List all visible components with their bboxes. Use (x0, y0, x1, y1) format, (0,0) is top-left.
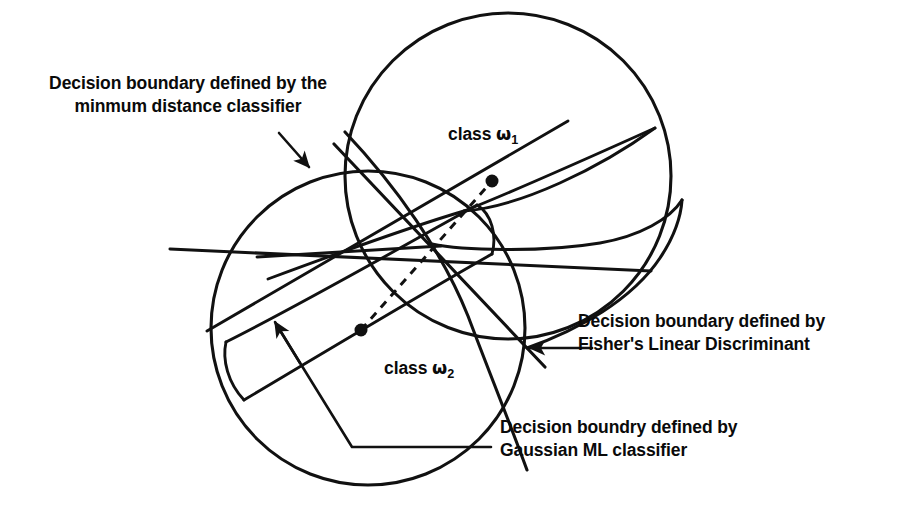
class1-label-symbol: ω (496, 124, 511, 144)
class1-mean-dot (486, 175, 499, 188)
class2-label-subscript: 2 (447, 367, 454, 381)
annotation-fisher-line1: Decision boundary defined by (578, 311, 825, 331)
annotation-gaussian-ml-line2: Gaussian ML classifier (500, 440, 687, 460)
annotation-fisher-linear-discriminant: Decision boundary defined by Fisher's Li… (578, 310, 825, 356)
annotation-min-distance-line2: minmum distance classifier (75, 96, 302, 116)
class1-label-prefix: class (448, 124, 496, 144)
annotation-fisher-line2: Fisher's Linear Discriminant (578, 334, 810, 354)
class2-circle (211, 171, 525, 485)
class2-mean-dot (355, 324, 368, 337)
class2-label-prefix: class (384, 358, 432, 378)
annotation-min-distance-classifier: Decision boundary defined by the minmum … (38, 72, 338, 118)
class1-circle (345, 13, 671, 339)
class1-label: class ω1 (448, 123, 518, 148)
perpendicular-bisector-line (207, 121, 568, 331)
gaussian-ml-leader-arrow (275, 322, 300, 363)
class1-label-subscript: 1 (511, 133, 518, 147)
class2-ellipse-lower-edge (244, 254, 492, 400)
figure-canvas: Decision boundary defined by the minmum … (0, 0, 907, 521)
min-distance-boundary-line (170, 249, 651, 271)
class2-ellipse-left-cap (225, 342, 244, 400)
annotation-min-distance-line1: Decision boundary defined by the (49, 73, 327, 93)
annotation-gaussian-ml-line1: Decision boundry defined by (500, 417, 737, 437)
gaussian-ml-leader-line (276, 324, 491, 447)
min-distance-leader-arrow (279, 133, 309, 167)
class2-label: class ω2 (384, 357, 454, 382)
class2-label-symbol: ω (432, 358, 447, 378)
annotation-gaussian-ml-classifier: Decision boundry defined by Gaussian ML … (500, 416, 737, 462)
